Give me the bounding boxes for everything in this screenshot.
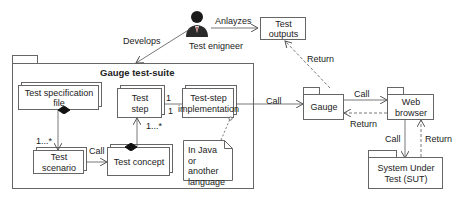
note-label: In Java or another language <box>184 141 226 180</box>
sut-label: System Under Test (SUT) <box>369 158 443 189</box>
analyzes-label: Anlayzes <box>215 16 252 26</box>
scenario-concept-call-label: Call <box>89 146 105 156</box>
actor-label: Test enigneer <box>189 41 243 51</box>
multiplicity-step-impl-bottom: 1 <box>168 106 173 116</box>
test-scenario-label: Test scenario <box>34 151 84 174</box>
gauge-browser-call-label: Call <box>354 89 370 99</box>
gauge-label: Gauge <box>304 95 344 120</box>
browser-gauge-return-label: Return <box>350 119 377 129</box>
multiplicity-spec-scenario: 1...* <box>36 136 52 146</box>
web-browser-label: Web browser <box>388 95 434 120</box>
test-outputs-label: Test outputs <box>261 18 306 40</box>
develops-arrow <box>136 29 190 63</box>
test-spec-file-label: Test specification file <box>19 86 99 110</box>
return-outputs-label: Return <box>307 54 334 64</box>
return-outputs-arrow <box>285 41 330 88</box>
multiplicity-concept-step: 1...* <box>146 121 162 131</box>
impl-gauge-call-label: Call <box>266 96 282 106</box>
test-step-impl-label: Test-step implementation <box>183 89 234 118</box>
test-concept-label: Test concept <box>108 148 170 176</box>
package-title: Gauge test-suite <box>100 68 174 78</box>
browser-sut-call-label: Call <box>385 134 401 144</box>
multiplicity-step-impl-top: 1 <box>166 93 171 103</box>
develops-label: Develops <box>123 36 161 46</box>
sut-browser-return-label: Return <box>425 134 452 144</box>
test-step-label: Test step <box>118 89 162 118</box>
person-icon <box>186 11 208 37</box>
